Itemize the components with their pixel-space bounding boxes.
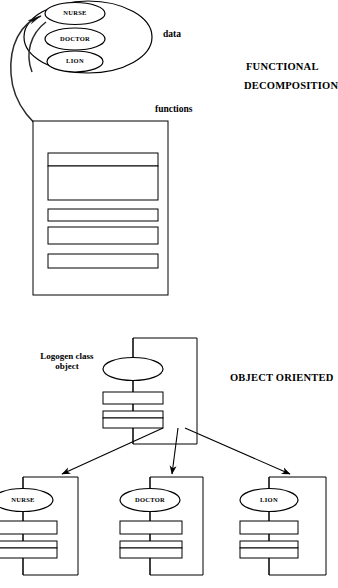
logogen-label-line2: object <box>33 362 101 371</box>
data-entity-label-nurse: NURSE <box>63 9 87 16</box>
subclass-doctor-bar-1 <box>120 521 182 534</box>
subclass-nurse-bar-2 <box>0 541 57 548</box>
inheritance-arrow-doctor <box>172 428 178 474</box>
subclass-lion-label: LION <box>260 496 278 503</box>
inheritance-arrows-group <box>62 428 290 474</box>
logogen-ellipse <box>103 358 163 381</box>
subclass-lion-bar-2 <box>240 541 298 548</box>
function-bar-3 <box>48 209 158 221</box>
inheritance-arrow-lion <box>185 428 290 474</box>
function-bar-2 <box>48 166 158 200</box>
logogen-method-bar-3 <box>103 418 163 428</box>
subclass-nurse-label: NURSE <box>11 496 35 503</box>
subclass-nurse-bar-1 <box>0 521 57 534</box>
subclass-nurse-group: NURSE <box>0 477 78 575</box>
data-entity-label-lion: LION <box>66 57 84 64</box>
functions-outer-box <box>33 121 168 295</box>
object-oriented-title: OBJECT ORIENTED <box>230 372 333 383</box>
subclass-lion-group: LION <box>240 477 326 575</box>
inheritance-arrow-nurse <box>62 428 163 474</box>
functional-title-line1: FUNCTIONAL <box>246 61 319 72</box>
data-entity-label-doctor: DOCTOR <box>60 35 90 42</box>
subclass-doctor-label: DOCTOR <box>135 496 165 503</box>
function-bar-5 <box>48 254 158 268</box>
subclass-lion-bar-1 <box>240 521 298 534</box>
logogen-class-group <box>103 338 197 444</box>
functional-title-line2: DECOMPOSITION <box>244 80 338 91</box>
functions-label: functions <box>155 105 192 115</box>
subclass-lion-bar-3 <box>240 548 298 558</box>
functions-box-group <box>33 121 168 295</box>
data-blob-group: NURSE DOCTOR LION <box>24 1 152 73</box>
subclass-doctor-group: DOCTOR <box>120 477 203 575</box>
subclass-nurse-bar-3 <box>0 548 57 558</box>
logogen-method-bar-2 <box>103 411 163 418</box>
logogen-method-bar-1 <box>103 392 163 404</box>
function-bar-4 <box>48 227 158 244</box>
data-label: data <box>163 30 181 40</box>
function-bar-1 <box>48 153 158 166</box>
subclass-doctor-bar-2 <box>120 541 182 548</box>
subclass-doctor-bar-3 <box>120 548 182 558</box>
